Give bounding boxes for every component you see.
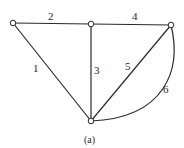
- edge-label-2: 2: [48, 10, 54, 22]
- graph-diagram: 1 2 3 4 5 6 (a): [0, 0, 184, 148]
- edge-label-4: 4: [132, 10, 138, 22]
- edge-2: [13, 23, 91, 24]
- node-c: [168, 22, 174, 28]
- node-a: [10, 20, 16, 26]
- edge-label-1: 1: [33, 62, 39, 74]
- edge-5: [91, 25, 171, 121]
- figure-caption: (a): [84, 134, 95, 146]
- edge-label-6: 6: [163, 83, 169, 95]
- node-d: [88, 118, 94, 124]
- edge-1: [13, 23, 91, 121]
- node-b: [88, 21, 94, 27]
- edge-label-3: 3: [94, 64, 100, 76]
- edge-label-5: 5: [125, 60, 131, 72]
- edge-4: [91, 24, 171, 25]
